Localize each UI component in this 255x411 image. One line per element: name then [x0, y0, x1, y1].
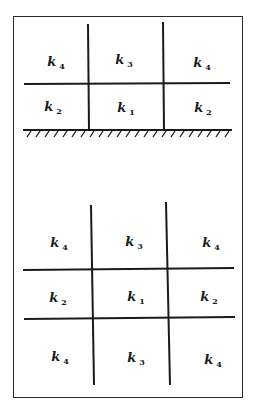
cell-label: k2 — [200, 289, 218, 306]
cell-label: k4 — [50, 235, 68, 252]
bottom-horizontal-line-2 — [24, 317, 235, 319]
cell-label: k2 — [44, 99, 62, 116]
cell-label: k4 — [202, 235, 220, 252]
ground-hatching — [27, 131, 229, 137]
bottom-vertical-line-1 — [91, 205, 94, 385]
cell-label: k1 — [127, 289, 145, 306]
cell-label: k4 — [193, 55, 211, 72]
cell-label: k2 — [49, 290, 67, 307]
cell-label: k2 — [194, 100, 212, 117]
bottom-vertical-line-2 — [166, 202, 170, 385]
cell-label: k4 — [47, 54, 65, 71]
cell-label: k4 — [204, 352, 222, 369]
cell-label: k3 — [125, 234, 143, 251]
cell-label: k3 — [127, 350, 145, 367]
cell-label: k3 — [115, 52, 133, 69]
cell-label: k4 — [51, 349, 69, 366]
top-horizontal-line — [24, 83, 230, 84]
top-vertical-line-1 — [88, 24, 89, 130]
cell-label: k1 — [117, 100, 135, 117]
top-vertical-line-2 — [163, 22, 164, 130]
bottom-horizontal-line-1 — [23, 268, 234, 270]
